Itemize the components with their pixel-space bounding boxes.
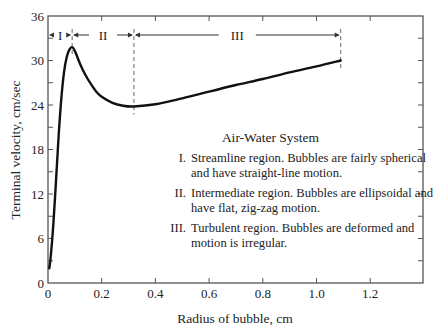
svg-text:6: 6 [38,231,45,246]
svg-text:24: 24 [31,98,45,113]
legend: Air-Water System I. Streamline region. B… [148,130,438,256]
svg-text:36: 36 [31,9,45,24]
x-axis-title: Radius of bubble, cm [177,311,293,326]
svg-text:0.4: 0.4 [147,286,164,301]
svg-text:12: 12 [31,187,44,202]
svg-text:0.8: 0.8 [255,286,271,301]
svg-text:0.6: 0.6 [201,286,218,301]
legend-item: II. Intermediate region. Bubbles are ell… [148,186,438,216]
svg-text:18: 18 [31,142,44,157]
svg-text:30: 30 [31,53,44,68]
legend-item-text: Turbulent region. Bubbles are deformed a… [191,221,438,251]
legend-item: I. Streamline region. Bubbles are fairly… [148,151,438,181]
legend-item-number: II. [148,186,191,216]
legend-item: III. Turbulent region. Bubbles are defor… [148,221,438,251]
svg-text:0: 0 [38,276,45,291]
legend-item-number: I. [148,151,191,181]
svg-text:0.2: 0.2 [94,286,110,301]
svg-text:0: 0 [45,286,52,301]
legend-item-text: Intermediate region. Bubbles are ellipso… [191,186,438,216]
svg-text:II: II [99,28,108,43]
legend-item-text: Streamline region. Bubbles are fairly sp… [191,151,438,181]
svg-text:III: III [231,28,244,43]
y-axis-title: Terminal velocity, cm/sec [8,81,23,220]
svg-text:1.0: 1.0 [308,286,324,301]
svg-text:1.2: 1.2 [362,286,378,301]
legend-title: Air-Water System [148,130,393,145]
svg-text:I: I [58,28,62,43]
legend-item-number: III. [148,221,191,251]
